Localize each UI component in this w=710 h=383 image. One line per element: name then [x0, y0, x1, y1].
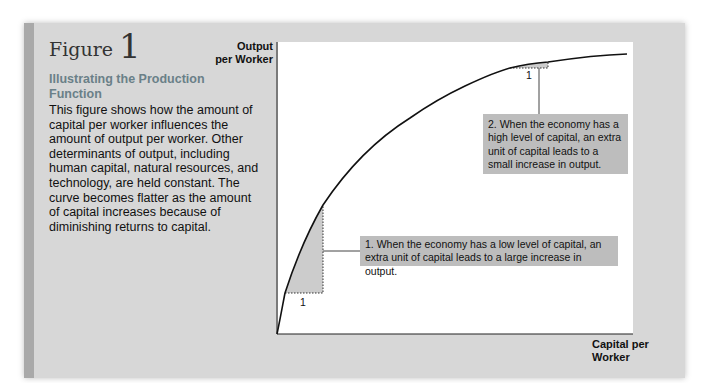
x-axis-label-line-1: Capital per [592, 338, 649, 351]
production-function-chart [0, 0, 710, 383]
y-axis-label-line-1: Output [215, 40, 273, 53]
x-axis-label-line-2: Worker [592, 351, 649, 364]
x-axis-label: Capital per Worker [592, 338, 649, 364]
high-capital-unit-label: 1 [526, 69, 532, 81]
y-axis-label: Output per Worker [215, 40, 273, 66]
callout-low-capital: 1. When the economy has a low level of c… [360, 236, 618, 266]
production-curve [277, 54, 627, 334]
callout-high-capital: 2. When the economy has a high level of … [483, 114, 628, 174]
low-capital-triangle [285, 205, 323, 293]
low-capital-unit-label: 1 [300, 296, 306, 308]
y-axis-label-line-2: per Worker [215, 53, 273, 66]
